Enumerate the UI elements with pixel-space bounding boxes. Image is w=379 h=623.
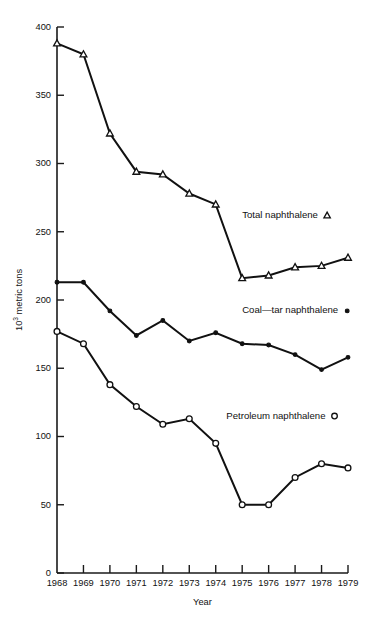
data-point-marker bbox=[345, 254, 352, 260]
data-point-marker bbox=[265, 272, 272, 278]
y-axis-tick-label: 300 bbox=[35, 158, 51, 168]
data-point-marker bbox=[213, 440, 219, 446]
data-point-marker bbox=[240, 342, 244, 346]
data-point-marker bbox=[346, 355, 350, 359]
data-point-marker bbox=[293, 353, 297, 357]
data-point-marker bbox=[318, 262, 325, 268]
data-point-marker bbox=[161, 319, 165, 323]
series-line-2 bbox=[57, 282, 348, 369]
data-point-marker bbox=[160, 421, 166, 427]
x-axis-tick-label: 1976 bbox=[258, 578, 279, 588]
y-axis-tick-label: 350 bbox=[35, 90, 51, 100]
x-axis: 1968196919701971197219731974197519761977… bbox=[47, 565, 359, 588]
legend-marker-triangle-icon bbox=[324, 212, 330, 218]
y-axis-tick-label: 100 bbox=[35, 431, 51, 441]
data-point-marker bbox=[108, 309, 112, 313]
data-point-marker bbox=[292, 264, 299, 270]
y-axis-title: 103 metric tons bbox=[12, 269, 24, 331]
x-axis-title: Year bbox=[193, 597, 212, 607]
legend-marker-dot-icon bbox=[345, 309, 349, 313]
legend-label-1: Total naphthalene bbox=[242, 209, 318, 220]
data-point-marker bbox=[81, 341, 87, 347]
series-line-1 bbox=[57, 43, 348, 278]
y-axis: 050100150200250300350400 bbox=[35, 22, 64, 578]
x-axis-tick-label: 1968 bbox=[47, 578, 68, 588]
data-point-marker bbox=[320, 368, 324, 372]
data-point-marker bbox=[54, 328, 60, 334]
data-point-marker bbox=[239, 502, 245, 508]
data-point-marker bbox=[212, 201, 219, 207]
x-axis-tick-label: 1972 bbox=[152, 578, 173, 588]
data-point-marker bbox=[133, 404, 139, 410]
y-axis-title-tail: metric tons bbox=[14, 269, 24, 317]
data-point-marker bbox=[134, 334, 138, 338]
data-point-marker bbox=[54, 40, 61, 46]
data-point-marker bbox=[187, 339, 191, 343]
x-axis-tick-label: 1977 bbox=[285, 578, 306, 588]
data-point-marker bbox=[292, 475, 298, 481]
data-point-marker bbox=[267, 343, 271, 347]
data-point-marker bbox=[319, 461, 325, 467]
data-point-marker bbox=[80, 51, 87, 57]
x-axis-tick-label: 1974 bbox=[205, 578, 226, 588]
legend-label-3: Petroleum naphthalene bbox=[226, 410, 325, 421]
x-axis-tick-label: 1970 bbox=[100, 578, 121, 588]
series-layer bbox=[57, 43, 348, 504]
y-axis-tick-label: 150 bbox=[35, 363, 51, 373]
naphthalene-production-line-chart: 050100150200250300350400 196819691970197… bbox=[0, 0, 379, 623]
data-point-marker bbox=[55, 280, 59, 284]
y-axis-tick-label: 250 bbox=[35, 227, 51, 237]
x-axis-tick-label: 1975 bbox=[232, 578, 253, 588]
x-axis-tick-label: 1969 bbox=[73, 578, 94, 588]
chart-legend: Total naphthaleneCoal—tar naphthalenePet… bbox=[226, 209, 349, 421]
data-point-marker bbox=[186, 416, 192, 422]
legend-label-2: Coal—tar naphthalene bbox=[242, 304, 338, 315]
y-axis-tick-label: 200 bbox=[35, 295, 51, 305]
data-point-marker bbox=[82, 280, 86, 284]
data-point-marker bbox=[107, 130, 114, 136]
legend-marker-circle-icon bbox=[332, 413, 338, 419]
chart-container: 050100150200250300350400 196819691970197… bbox=[0, 0, 379, 623]
data-point-marker bbox=[239, 275, 246, 281]
x-axis-tick-label: 1979 bbox=[338, 578, 359, 588]
data-point-marker bbox=[266, 502, 272, 508]
y-axis-tick-label: 400 bbox=[35, 22, 51, 32]
data-point-marker bbox=[159, 171, 166, 177]
x-axis-tick-label: 1973 bbox=[179, 578, 200, 588]
markers-layer bbox=[54, 40, 352, 508]
y-axis-tick-label: 50 bbox=[41, 500, 51, 510]
data-point-marker bbox=[214, 331, 218, 335]
x-axis-tick-label: 1971 bbox=[126, 578, 147, 588]
y-axis-title-base: 10 bbox=[14, 321, 24, 331]
y-axis-tick-label: 0 bbox=[46, 568, 51, 578]
data-point-marker bbox=[107, 382, 113, 388]
x-axis-tick-label: 1978 bbox=[311, 578, 332, 588]
data-point-marker bbox=[345, 465, 351, 471]
